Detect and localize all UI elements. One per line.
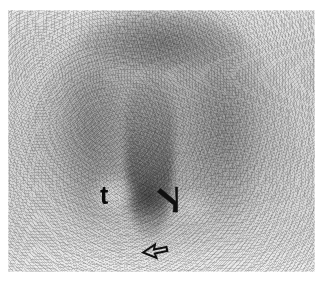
tumor-label: t [100,183,108,208]
open-arrow-upper-icon [152,183,182,221]
open-arrow-lower-icon [134,237,174,267]
annotation-layer: t [0,0,322,283]
scintigraphy-figure: t [0,0,322,283]
